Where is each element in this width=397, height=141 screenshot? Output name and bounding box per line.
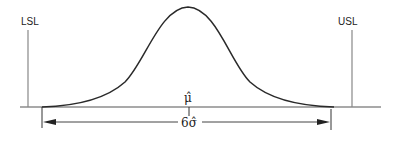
arrowhead-right-icon xyxy=(317,119,330,125)
arrowhead-left-icon xyxy=(43,119,56,125)
lsl-label: LSL xyxy=(21,16,39,27)
usl-label: USL xyxy=(338,16,358,27)
mean-label: μ̂ xyxy=(184,91,192,105)
capability-diagram: LSL USL μ̂ 6σ̂ xyxy=(0,0,397,141)
spread-label: 6σ̂ xyxy=(181,116,197,130)
